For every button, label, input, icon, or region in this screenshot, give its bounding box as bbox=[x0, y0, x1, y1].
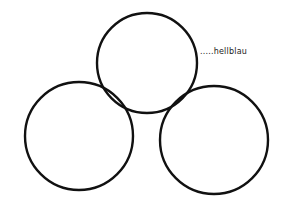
circle-left bbox=[25, 82, 133, 190]
hellblau-label: .....hellblau bbox=[200, 47, 247, 56]
three-circles-diagram bbox=[0, 0, 285, 212]
circle-right bbox=[160, 86, 268, 194]
